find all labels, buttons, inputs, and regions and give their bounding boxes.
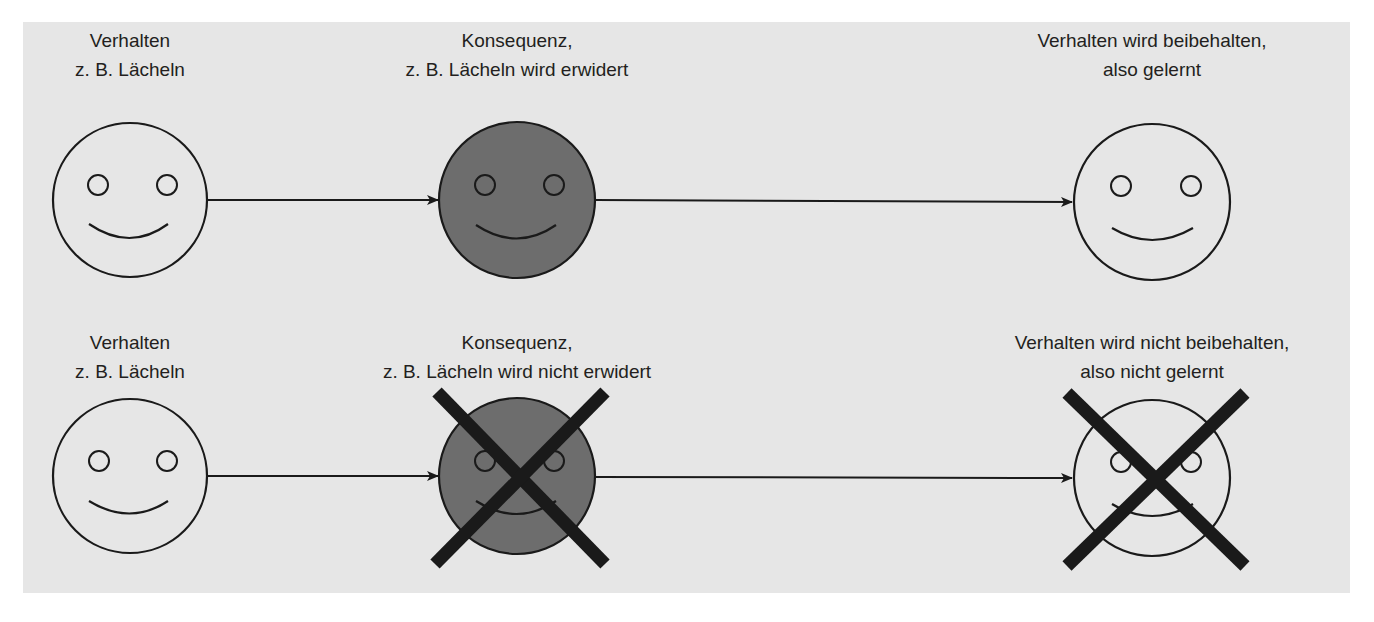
- row2-outcome-cross-icon: [1067, 393, 1245, 566]
- learning-diagram: [0, 0, 1374, 622]
- row1-arrow-2: [595, 200, 1072, 202]
- row1-consequence-smiley-icon: [439, 122, 595, 278]
- row1-behavior-smiley-icon: [53, 123, 207, 277]
- row1-outcome-smiley-icon: [1074, 124, 1230, 280]
- row2-behavior-smiley-icon: [53, 399, 207, 553]
- row2-arrow-2: [595, 477, 1072, 478]
